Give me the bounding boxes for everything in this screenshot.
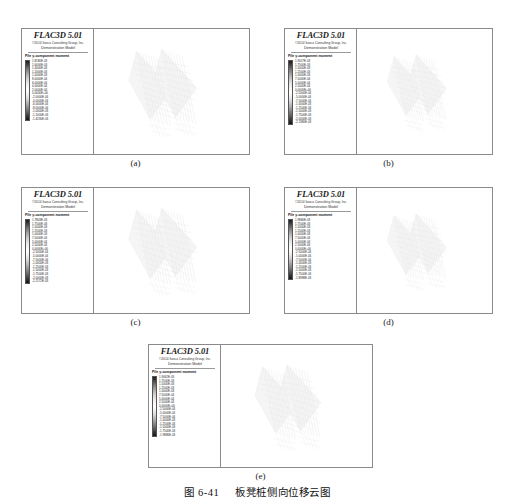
app-title: FLAC3D 5.01 [24,31,92,40]
figure-caption: 图 6-41 板凳桩侧向位移云图 [0,484,515,499]
model-name: Demonstration Model [291,205,351,212]
app-title: FLAC3D 5.01 [287,31,355,40]
legend-tick: -1.4230E-03 [32,118,48,122]
panel-b: FLAC3D 5.01 ©2014 Itasca Consulting Grou… [284,28,493,155]
figure-number: 图 6-41 [184,487,219,498]
model-name: Demonstration Model [155,362,215,369]
legend-panel-c: FLAC3D 5.01 ©2014 Itasca Consulting Grou… [22,188,94,313]
panel-d: FLAC3D 5.01 ©2014 Itasca Consulting Grou… [284,187,493,314]
legend-tick-list-a: 1.8180E-03 1.6000E-03 1.4000E-03 1.2000E… [32,60,50,121]
copyright-text: ©2014 Itasca Consulting Group, Inc. [25,41,92,45]
legend-tick: -2.2172E-03 [32,280,48,284]
contour-viewport-c[interactable] [94,188,249,313]
flac3d-window-a: FLAC3D 5.01 ©2014 Itasca Consulting Grou… [21,28,250,155]
panel-c: FLAC3D 5.01 ©2014 Itasca Consulting Grou… [21,187,250,314]
model-name: Demonstration Model [28,205,88,212]
colorbar-gradient [25,60,30,121]
flac3d-window-b: FLAC3D 5.01 ©2014 Itasca Consulting Grou… [284,28,493,155]
app-title: FLAC3D 5.01 [287,190,355,199]
contour-viewport-b[interactable] [357,29,492,154]
model-name: Demonstration Model [291,46,351,53]
pile-contour-mesh [357,29,492,154]
panel-e: FLAC3D 5.01 ©2014 Itasca Consulting Grou… [148,344,373,468]
contour-viewport-a[interactable] [94,29,249,154]
colorbar-gradient [288,219,293,280]
contour-viewport-d[interactable] [357,188,492,313]
color-scale-row: 1.9062E-03 1.7500E-03 1.5000E-03 1.2500E… [151,376,219,437]
subfigure-label-c: (c) [21,317,250,327]
app-title: FLAC3D 5.01 [24,190,92,199]
color-scale-row: 1.7803E-03 1.7500E-03 1.5000E-03 1.2500E… [24,219,92,284]
subfigure-label-d: (d) [284,317,493,327]
panel-a: FLAC3D 5.01 ©2014 Itasca Consulting Grou… [21,28,250,155]
legend-tick: -2.1380E-03 [295,121,311,125]
color-scale-row: 1.9866E-03 1.7500E-03 1.5000E-03 1.2500E… [287,219,355,280]
flac3d-window-e: FLAC3D 5.01 ©2014 Itasca Consulting Grou… [148,344,373,468]
color-scale-row: 1.8180E-03 1.6000E-03 1.4000E-03 1.2000E… [24,60,92,121]
legend-panel-d: FLAC3D 5.01 ©2014 Itasca Consulting Grou… [285,188,357,313]
subfigure-label-e: (e) [148,471,373,481]
copyright-text: ©2014 Itasca Consulting Group, Inc. [25,200,92,204]
pile-contour-mesh [94,188,249,313]
subfigure-label-b: (b) [284,158,493,168]
legend-tick-list-d: 1.9866E-03 1.7500E-03 1.5000E-03 1.2500E… [295,219,313,280]
figure-container: FLAC3D 5.01 ©2014 Itasca Consulting Grou… [0,0,515,502]
legend-panel-e: FLAC3D 5.01 ©2014 Itasca Consulting Grou… [149,345,221,467]
legend-panel-a: FLAC3D 5.01 ©2014 Itasca Consulting Grou… [22,29,94,154]
colorbar-gradient [152,376,157,437]
legend-tick: -1.8988E-03 [295,277,311,281]
pile-contour-mesh [94,29,249,154]
app-title: FLAC3D 5.01 [151,347,219,356]
model-name: Demonstration Model [28,46,88,53]
subfigure-label-a: (a) [21,158,250,168]
flac3d-window-d: FLAC3D 5.01 ©2014 Itasca Consulting Grou… [284,187,493,314]
legend-tick-list-c: 1.7803E-03 1.7500E-03 1.5000E-03 1.2500E… [32,219,50,284]
figure-caption-text: 板凳桩侧向位移云图 [235,486,330,498]
copyright-text: ©2014 Itasca Consulting Group, Inc. [288,200,355,204]
contour-viewport-e[interactable] [221,345,372,467]
legend-tick-list-b: 1.9017E-03 1.7500E-03 1.5000E-03 1.2500E… [295,60,313,125]
pile-contour-mesh [221,345,372,467]
copyright-text: ©2014 Itasca Consulting Group, Inc. [152,357,219,361]
color-scale-row: 1.9017E-03 1.7500E-03 1.5000E-03 1.2500E… [287,60,355,125]
colorbar-gradient [25,219,30,284]
colorbar-gradient [288,60,293,125]
pile-contour-mesh [357,188,492,313]
legend-tick: -1.9886E-03 [159,434,175,438]
flac3d-window-c: FLAC3D 5.01 ©2014 Itasca Consulting Grou… [21,187,250,314]
legend-tick-list-e: 1.9062E-03 1.7500E-03 1.5000E-03 1.2500E… [159,376,177,437]
legend-panel-b: FLAC3D 5.01 ©2014 Itasca Consulting Grou… [285,29,357,154]
copyright-text: ©2014 Itasca Consulting Group, Inc. [288,41,355,45]
